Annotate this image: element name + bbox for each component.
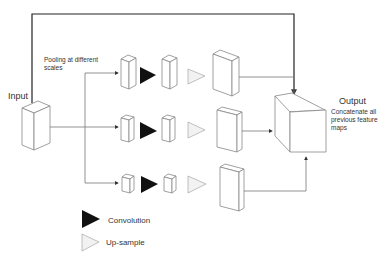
input-label: Input (8, 91, 29, 101)
upsample-icon (188, 176, 206, 193)
convolution-icon (140, 67, 156, 84)
pooled-cube (121, 115, 134, 142)
legend-label-upsample: Up-sample (106, 238, 145, 247)
legend: Convolution Up-sample (82, 210, 150, 251)
branch-scale-2 (121, 107, 272, 152)
pyramid-pooling-diagram: Input Pooling at different scales (0, 0, 383, 259)
output-label: Output (339, 96, 367, 106)
output-cube (275, 93, 326, 152)
upsampled-cube (213, 50, 239, 96)
conv-cube (162, 55, 177, 89)
convolution-icon (141, 176, 158, 193)
branch-scale-1 (121, 50, 294, 96)
upsample-icon (188, 122, 205, 138)
pooling-label: Pooling at different scales (44, 56, 100, 71)
upsample-icon (188, 69, 205, 84)
upsampled-cube (217, 107, 242, 152)
convolution-icon (82, 210, 100, 228)
output-description: Concatenate all previous feature maps (331, 108, 379, 132)
branch-scale-3 (122, 157, 306, 211)
pooled-cube (121, 55, 136, 89)
legend-item-convolution: Convolution (82, 210, 150, 228)
branch-3-output-arrow (244, 157, 306, 191)
input-cube (22, 101, 50, 150)
convolution-icon (140, 122, 157, 139)
pooled-cube (122, 174, 134, 193)
conv-cube (164, 174, 176, 193)
legend-label-convolution: Convolution (108, 216, 150, 225)
upsampled-cube (220, 164, 244, 211)
legend-item-upsample: Up-sample (82, 234, 145, 251)
conv-cube (162, 115, 175, 142)
upsample-icon (82, 234, 99, 251)
